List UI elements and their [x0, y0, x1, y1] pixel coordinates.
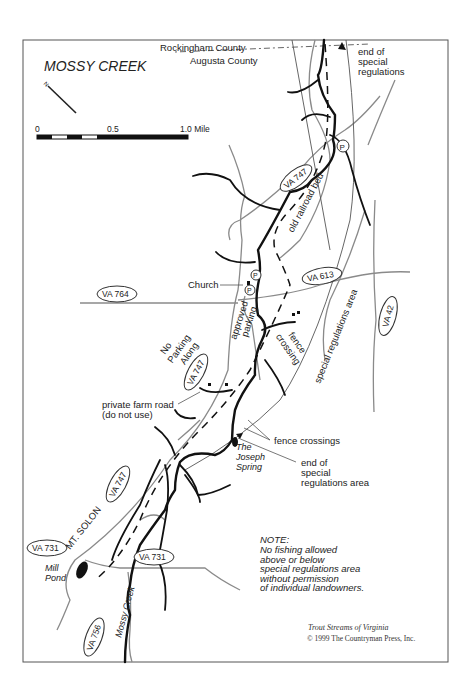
joseph-spring-label: The Joseph Spring [235, 442, 265, 472]
private-farm-road-label: private farm road (do not use) [102, 399, 174, 420]
parking-icon: P [251, 270, 261, 280]
scale-bar: 0 0.5 1.0 Mile [35, 124, 210, 139]
credit-book-title: Trout Streams of Virginia [308, 623, 389, 632]
map-title: MOSSY CREEK [44, 58, 147, 74]
special-regulations-area-label: special regulations area [312, 287, 360, 385]
end-of-special-regulations-top-label: end of special regulations [358, 46, 405, 77]
credit-copyright: © 1999 The Countryman Press, Inc. [307, 634, 415, 643]
old-railroad-bed [95, 44, 328, 580]
mill-pond-label: Mill Pond [45, 563, 67, 583]
svg-text:The: The [236, 442, 252, 452]
route-shield-va731-west: VA 731 [27, 540, 67, 556]
route-shield-va756: VA 756 [80, 615, 109, 658]
end-marker-arrow-icon [338, 42, 346, 50]
mossy-creek-label: Mossy Creek [113, 585, 136, 639]
route-shield-va764: VA 764 [97, 286, 137, 302]
svg-text:P: P [253, 272, 258, 279]
svg-text:regulations area: regulations area [301, 477, 370, 488]
svg-text:P: P [247, 287, 252, 294]
svg-text:(do not use): (do not use) [102, 409, 153, 420]
parking-icon: P [245, 285, 255, 295]
approved-parking-label: approved parking [227, 300, 259, 344]
note-block: NOTE: No fishing allowed above or below … [260, 534, 364, 593]
svg-text:1.0 Mile: 1.0 Mile [180, 124, 210, 134]
end-marker-arrow-icon [236, 433, 243, 439]
parking-icon: P [337, 140, 349, 152]
fence-crossing-label: fence crossing [274, 325, 312, 367]
mossy-creek-map: Rockingham County Augusta County MOSSY C… [0, 0, 470, 699]
county-south-label: Augusta County [190, 55, 258, 66]
church-label: Church [188, 279, 219, 290]
mt-solon-label: MT. SOLON [63, 504, 103, 551]
fence-crossings-leader [244, 428, 270, 440]
route-shield-va747-south: VA 747 [102, 463, 135, 506]
svg-text:0: 0 [35, 124, 40, 134]
route-shield-va42: VA 42 [375, 295, 401, 338]
svg-text:VA 731: VA 731 [139, 552, 166, 562]
county-north-label: Rockingham County [160, 42, 246, 53]
svg-text:Spring: Spring [236, 462, 262, 472]
route-shield-va731-east: VA 731 [134, 549, 174, 565]
svg-text:VA 764: VA 764 [102, 289, 129, 299]
svg-text:Mill: Mill [45, 563, 59, 573]
fence-crossings-label: fence crossings [274, 435, 340, 446]
route-shield-va613: VA 613 [301, 265, 343, 288]
end-of-special-regulations-bottom-label: end of special regulations area [301, 457, 370, 488]
svg-text:P: P [340, 143, 345, 152]
svg-text:VA 731: VA 731 [32, 543, 59, 553]
north-arrow-icon: N [42, 80, 76, 113]
svg-text:regulations: regulations [358, 66, 405, 77]
svg-text:of individual landowners.: of individual landowners. [260, 582, 364, 593]
fence-crossings-leader [248, 420, 270, 440]
svg-text:0.5: 0.5 [107, 124, 119, 134]
farm-road-leader [178, 392, 200, 404]
svg-text:Joseph: Joseph [235, 452, 265, 462]
svg-text:Pond: Pond [45, 573, 67, 583]
mill-pond [74, 560, 91, 581]
